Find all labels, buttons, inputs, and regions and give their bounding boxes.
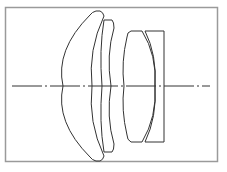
lens-diagram bbox=[0, 0, 227, 172]
lens-diagram-svg bbox=[0, 0, 227, 172]
diagram-frame bbox=[6, 8, 218, 162]
